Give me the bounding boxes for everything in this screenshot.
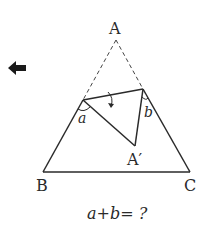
- dashed-edge-left: [83, 40, 116, 100]
- vertex-a-label: A: [108, 19, 121, 38]
- side-right: [143, 89, 190, 172]
- vertex-c-label: C: [184, 176, 196, 195]
- folded-edge-left: [83, 100, 135, 146]
- angle-a-label: a: [78, 110, 86, 126]
- question-text: a+b= ?: [87, 204, 148, 223]
- side-left: [43, 100, 83, 172]
- angle-b-label: b: [144, 104, 153, 120]
- fold-line: [83, 89, 143, 100]
- dashed-edge-right: [116, 40, 143, 89]
- vertex-b-label: B: [36, 176, 48, 195]
- left-arrow-icon[interactable]: [8, 61, 26, 75]
- triangle-fold-diagram: A B C A′ a b a+b= ?: [0, 0, 214, 226]
- vertex-a-prime-label: A′: [126, 150, 143, 169]
- folded-edge-right: [135, 89, 143, 146]
